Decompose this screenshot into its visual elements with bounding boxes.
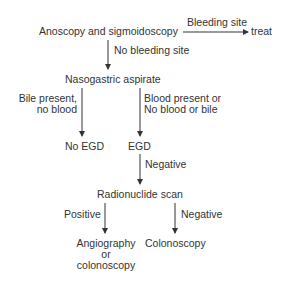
label-no-bleeding-site: No bleeding site bbox=[114, 45, 189, 56]
label-positive: Positive bbox=[64, 209, 101, 220]
label-blood-present: Blood present or No blood or bile bbox=[144, 93, 221, 115]
blood-line-2: No blood or bile bbox=[144, 104, 221, 115]
label-egd-negative: Negative bbox=[145, 159, 186, 170]
node-radionuclide-scan: Radionuclide scan bbox=[97, 189, 183, 200]
label-bleeding-site: Bleeding site bbox=[187, 17, 247, 28]
node-egd: EGD bbox=[128, 141, 151, 152]
node-colonoscopy: Colonoscopy bbox=[145, 238, 206, 249]
label-scan-negative: Negative bbox=[181, 209, 222, 220]
node-treat: treat bbox=[251, 26, 272, 37]
node-angiography-or-colonoscopy: Angiography or colonoscopy bbox=[70, 238, 142, 271]
node-anoscopy: Anoscopy and sigmoidoscopy bbox=[39, 26, 178, 37]
node-nasogastric-aspirate: Nasogastric aspirate bbox=[65, 74, 161, 85]
gi-bleeding-flowchart: Anoscopy and sigmoidoscopy treat Nasogas… bbox=[0, 0, 296, 281]
angio-line-3: colonoscopy bbox=[70, 260, 142, 271]
label-bile-present: Bile present, no blood bbox=[10, 93, 77, 115]
node-no-egd: No EGD bbox=[65, 141, 104, 152]
bile-line-2: no blood bbox=[10, 104, 77, 115]
